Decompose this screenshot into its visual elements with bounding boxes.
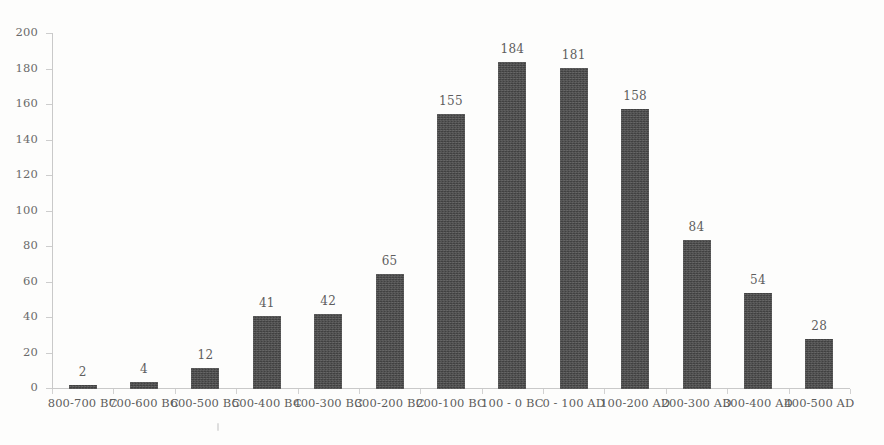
bar <box>805 339 833 389</box>
y-axis-tick-label: 200 <box>0 27 38 39</box>
bar <box>191 368 219 389</box>
bar-wrap: 158 <box>604 33 665 389</box>
bar-wrap: 28 <box>789 33 850 389</box>
bar-column: 155 <box>420 33 481 389</box>
x-axis-tick <box>52 389 53 394</box>
bar-column: 54 <box>727 33 788 389</box>
bar-value-label: 42 <box>298 295 359 307</box>
x-axis-tick <box>420 389 421 394</box>
x-axis-tick <box>236 389 237 394</box>
bar-column: 28 <box>789 33 850 389</box>
y-axis-tick-label: 0 <box>0 382 38 394</box>
bar <box>376 274 404 389</box>
bar-value-label: 155 <box>420 95 481 107</box>
bar-column: 41 <box>236 33 297 389</box>
bar <box>621 109 649 389</box>
x-axis-category-label: 400-500 AD <box>783 398 856 410</box>
bar-value-label: 28 <box>789 320 850 332</box>
bar <box>498 62 526 389</box>
bar <box>683 240 711 389</box>
x-axis-tick <box>727 389 728 394</box>
bar-wrap: 12 <box>175 33 236 389</box>
y-axis-tick-label: 140 <box>0 134 38 146</box>
y-axis-tick-label: 40 <box>0 311 38 323</box>
bar-column: 184 <box>482 33 543 389</box>
bar-column: 84 <box>666 33 727 389</box>
scan-artifact-mark <box>217 423 219 431</box>
bar-wrap: 184 <box>482 33 543 389</box>
bar <box>744 293 772 389</box>
bar-value-label: 184 <box>482 43 543 55</box>
x-axis-tick <box>543 389 544 394</box>
bar-value-label: 181 <box>543 49 604 61</box>
bar <box>314 314 342 389</box>
bar-value-label: 2 <box>52 366 113 378</box>
x-axis-tick <box>789 389 790 394</box>
bar-wrap: 84 <box>666 33 727 389</box>
bar <box>69 385 97 389</box>
x-axis-tick <box>666 389 667 394</box>
bar-column: 2 <box>52 33 113 389</box>
bar-value-label: 54 <box>727 274 788 286</box>
y-axis-tick-label: 160 <box>0 98 38 110</box>
bar-chart: 020406080100120140160180200 241241426515… <box>0 0 884 445</box>
bar-value-label: 41 <box>236 297 297 309</box>
bar-column: 12 <box>175 33 236 389</box>
bar-column: 158 <box>604 33 665 389</box>
bar-column: 4 <box>113 33 174 389</box>
y-axis-tick-label: 80 <box>0 240 38 252</box>
bar <box>253 316 281 389</box>
y-axis-tick-label: 100 <box>0 205 38 217</box>
bar-value-label: 12 <box>175 349 236 361</box>
y-axis-tick-label: 60 <box>0 276 38 288</box>
x-axis-tick <box>604 389 605 394</box>
bar-value-label: 65 <box>359 255 420 267</box>
x-axis-tick <box>175 389 176 394</box>
x-axis-tick <box>850 389 851 394</box>
bar-wrap: 155 <box>420 33 481 389</box>
bar-column: 42 <box>298 33 359 389</box>
bar-value-label: 158 <box>604 90 665 102</box>
bar-wrap: 65 <box>359 33 420 389</box>
x-axis-tick <box>113 389 114 394</box>
bar-wrap: 4 <box>113 33 174 389</box>
y-axis-tick-label: 20 <box>0 347 38 359</box>
bar-column: 181 <box>543 33 604 389</box>
bar-wrap: 2 <box>52 33 113 389</box>
bar-wrap: 54 <box>727 33 788 389</box>
x-axis-tick <box>359 389 360 394</box>
y-axis-tick-label: 120 <box>0 169 38 181</box>
bar <box>437 114 465 389</box>
bar-value-label: 84 <box>666 221 727 233</box>
bar-wrap: 181 <box>543 33 604 389</box>
x-axis-tick <box>298 389 299 394</box>
bar-value-label: 4 <box>113 363 174 375</box>
y-axis-tick-label: 180 <box>0 63 38 75</box>
bar-wrap: 42 <box>298 33 359 389</box>
bar <box>560 68 588 389</box>
bar <box>130 382 158 389</box>
bar-wrap: 41 <box>236 33 297 389</box>
bar-column: 65 <box>359 33 420 389</box>
x-axis-tick <box>482 389 483 394</box>
